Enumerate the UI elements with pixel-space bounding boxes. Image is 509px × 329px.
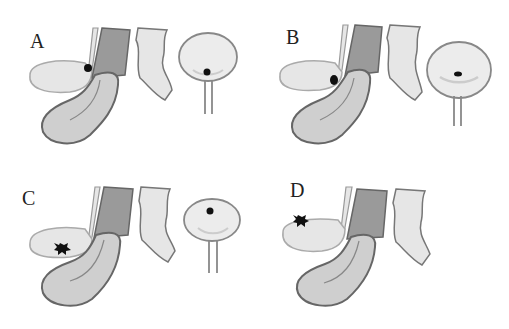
upper-lobe <box>30 61 92 92</box>
anatomy-figure-b <box>250 0 509 164</box>
panel-b: B <box>250 0 504 164</box>
bladder-lesion-marker <box>204 69 211 76</box>
anatomy-figure-c <box>0 165 254 329</box>
panel-d: D <box>250 165 504 329</box>
panel-c: C <box>0 165 254 329</box>
anatomy-figure-d <box>250 165 509 329</box>
panel-a: A <box>0 0 254 164</box>
lesion-marker <box>84 64 92 72</box>
anatomy-figure-a <box>0 0 254 164</box>
